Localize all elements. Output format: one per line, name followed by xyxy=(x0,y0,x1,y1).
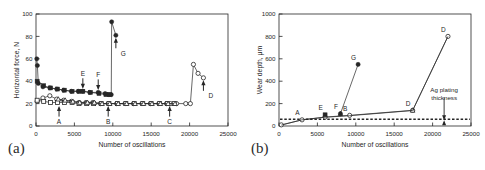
series-filled-circle-series xyxy=(338,62,360,115)
y-tick-label: 60 xyxy=(26,55,33,62)
annotation-A: A xyxy=(57,106,62,125)
annotation-F: F xyxy=(96,71,100,90)
plot-frame xyxy=(36,14,228,126)
x-tick-label: 25000 xyxy=(219,130,237,137)
series-filled-circle-series xyxy=(35,20,118,97)
y-axis-title: Wear depth, μm xyxy=(256,45,264,94)
annotation-label: A xyxy=(57,118,62,125)
data-point xyxy=(35,98,39,102)
annotation-D: D xyxy=(201,80,213,99)
annotation-D: D xyxy=(406,100,411,107)
series-filled-square-series xyxy=(323,113,327,117)
y-tick-label: 400 xyxy=(265,77,276,84)
annotation-G: G xyxy=(114,38,126,57)
annotation-E: E xyxy=(81,70,86,89)
data-point xyxy=(77,89,81,93)
annotation-arrowhead xyxy=(168,106,172,111)
annotation-label: C xyxy=(167,118,172,125)
y-tick-label: 0 xyxy=(29,122,33,129)
series-line xyxy=(281,36,448,124)
data-point xyxy=(356,62,360,66)
annotation-label: G xyxy=(351,54,356,61)
reference-line-label: Ag plating xyxy=(430,86,458,93)
annotation-G: G xyxy=(351,54,356,61)
annotation-arrowhead xyxy=(81,84,85,89)
data-point xyxy=(89,90,93,94)
reference-line-arrowhead-lower xyxy=(442,120,446,125)
annotation-label: A xyxy=(295,109,300,116)
x-tick-label: 20000 xyxy=(424,130,442,137)
data-point xyxy=(323,113,327,117)
data-point xyxy=(49,100,53,104)
y-tick-label: 600 xyxy=(265,55,276,62)
y-tick-label: 0 xyxy=(272,122,276,129)
annotation-label: E xyxy=(318,104,323,111)
data-point xyxy=(48,94,52,98)
data-point xyxy=(338,112,342,116)
annotation-label: D xyxy=(406,100,411,107)
annotation-E: E xyxy=(318,104,323,111)
x-tick-label: 15000 xyxy=(386,130,404,137)
data-point xyxy=(196,71,200,75)
x-axis-title: Number of oscillations xyxy=(99,141,166,148)
annotation-C: C xyxy=(167,106,172,125)
data-point xyxy=(184,102,188,106)
x-axis: 0500010000150002000025000 xyxy=(34,123,237,137)
data-point xyxy=(108,93,112,97)
figure-container: 0500010000150002000025000020406080100Num… xyxy=(0,0,485,170)
annotation-B: B xyxy=(343,105,347,112)
data-point xyxy=(201,76,205,80)
data-point xyxy=(42,84,46,88)
annotation-label: G xyxy=(121,50,126,57)
y-tick-label: 20 xyxy=(26,100,33,107)
y-axis-title: Horizontal force, N xyxy=(13,42,20,98)
y-tick-label: 1000 xyxy=(262,10,276,17)
annotation-label: D xyxy=(208,92,213,99)
x-axis-title: Number of oscillations xyxy=(342,141,409,148)
annotation-arrowhead xyxy=(106,106,110,111)
series-line xyxy=(37,64,203,103)
x-axis: 0500010000150002000025000 xyxy=(277,123,480,137)
x-tick-label: 5000 xyxy=(311,130,325,137)
annotation-arrowhead xyxy=(201,80,205,85)
data-point xyxy=(49,86,53,90)
x-tick-label: 25000 xyxy=(462,130,480,137)
data-point xyxy=(35,57,39,61)
x-tick-label: 0 xyxy=(277,130,281,137)
series-filled-square-series xyxy=(35,79,112,96)
annotation-label: B xyxy=(106,118,110,125)
data-point xyxy=(114,33,118,37)
panel-a-label: (a) xyxy=(8,140,25,157)
x-tick-label: 10000 xyxy=(104,130,122,137)
annotation-B: B xyxy=(106,106,110,125)
y-tick-label: 80 xyxy=(26,33,33,40)
data-point xyxy=(42,99,46,103)
data-point xyxy=(35,79,39,83)
annotation-label: F xyxy=(334,103,338,110)
data-point xyxy=(70,89,74,93)
annotation-arrowhead xyxy=(96,85,100,90)
x-tick-label: 15000 xyxy=(143,130,161,137)
x-tick-label: 10000 xyxy=(347,130,365,137)
data-point xyxy=(35,63,39,67)
chart-plot-b: 0500010000150002000025000020040060080010… xyxy=(243,0,485,170)
series-baseline-series xyxy=(281,36,448,125)
data-point xyxy=(191,62,195,66)
y-axis: 020406080100 xyxy=(22,10,39,129)
data-point xyxy=(110,20,114,24)
annotation-arrowhead xyxy=(114,38,118,43)
chart-panel-a: 0500010000150002000025000020406080100Num… xyxy=(0,0,242,170)
annotation-label: F xyxy=(96,71,100,78)
data-point xyxy=(188,102,192,106)
x-tick-label: 5000 xyxy=(68,130,82,137)
annotation-A: A xyxy=(295,109,300,116)
data-point xyxy=(104,93,108,97)
series-line xyxy=(281,36,448,125)
data-point xyxy=(56,87,60,91)
x-tick-label: 20000 xyxy=(181,130,199,137)
y-tick-label: 40 xyxy=(26,77,33,84)
chart-plot-a: 0500010000150002000025000020406080100Num… xyxy=(0,0,242,170)
panel-b-label: (b) xyxy=(251,140,269,157)
y-tick-label: 100 xyxy=(22,10,33,17)
annotation-label: B xyxy=(343,105,347,112)
